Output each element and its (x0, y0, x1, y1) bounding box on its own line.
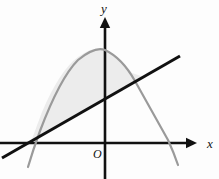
x-axis-group: x (0, 136, 213, 151)
figure-container: x y O (0, 0, 219, 179)
y-axis-arrow-icon (100, 17, 110, 28)
graph-diagram: x y O (0, 0, 219, 179)
shaded-region (31, 49, 144, 142)
x-axis-arrow-icon (186, 138, 197, 148)
origin-label: O (93, 147, 102, 161)
x-axis-label: x (206, 136, 213, 151)
y-axis-label: y (99, 1, 107, 16)
